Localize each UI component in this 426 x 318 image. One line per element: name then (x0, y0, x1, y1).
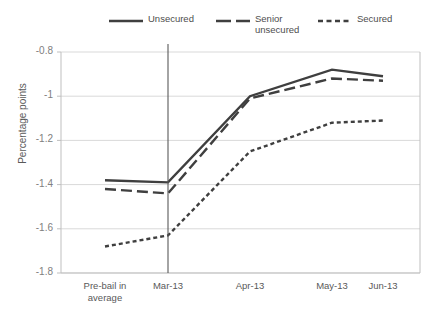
y-tick-label: -1.2 (13, 133, 53, 144)
y-tick-label: -1.4 (13, 178, 53, 189)
gridlines (61, 52, 420, 273)
x-tick-label: Jun-13 (346, 280, 420, 292)
y-axis-title: Percentage points (17, 54, 28, 194)
x-tick-label: Mar-13 (131, 280, 205, 292)
y-tick-label: -1.6 (13, 222, 53, 233)
axis-lines (57, 52, 420, 273)
x-tick-label: Apr-13 (213, 280, 287, 292)
y-tick-label: -1.8 (13, 266, 53, 277)
y-tick-label: -1 (13, 89, 53, 100)
series-line-2 (105, 121, 383, 247)
series-line-0 (105, 70, 383, 183)
chart-container: Unsecured Senior unsecured Secured Per (0, 0, 426, 318)
plot-area (0, 0, 426, 318)
y-tick-label: -0.8 (13, 45, 53, 56)
